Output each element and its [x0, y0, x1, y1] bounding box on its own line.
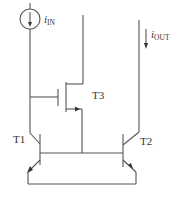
- arrow-down-icon: [28, 22, 32, 27]
- mosfet-t3: [58, 15, 83, 153]
- current-source: [20, 3, 40, 29]
- t2-label: T2: [140, 135, 152, 147]
- output-current-label: iOUT: [151, 28, 170, 42]
- t1-collector: [30, 133, 40, 144]
- input-current-label: iIN: [44, 13, 56, 27]
- t1-emitter-arrow-icon: [27, 166, 33, 173]
- circuit-diagram: iIN T3 iOUT T1 T2: [0, 0, 180, 198]
- t3-label: T3: [92, 89, 105, 101]
- t2-collector: [123, 132, 139, 145]
- arrow-down-icon: [144, 43, 148, 49]
- t1-label: T1: [13, 133, 25, 145]
- bjt-t1: [27, 133, 40, 184]
- t3-source-arrow-icon: [75, 107, 80, 112]
- output-current-arrow: [144, 29, 148, 49]
- bjt-t2: [123, 132, 139, 184]
